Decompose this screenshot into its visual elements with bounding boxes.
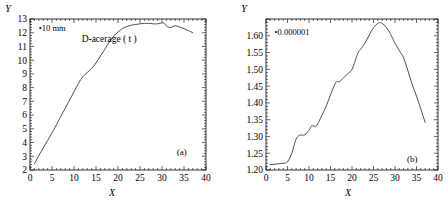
- y-tick-label: 13: [18, 14, 28, 24]
- x-tick-label: 35: [412, 173, 422, 183]
- y-tick-label: 1.25: [246, 149, 263, 159]
- y-tick-label: 9: [22, 69, 27, 79]
- x-tick-label: 40: [201, 173, 211, 183]
- y-tick-label: 1.60: [246, 31, 263, 41]
- y-tick-label: 10: [18, 56, 28, 66]
- x-tick-label: 15: [91, 173, 101, 183]
- y-tick-label: 1.20: [246, 165, 263, 175]
- y-axis-ticks-b: [266, 19, 438, 170]
- y-tick-label: 1.40: [246, 98, 263, 108]
- x-tick-label: 30: [157, 173, 167, 183]
- y-axis-title-b: Y: [241, 3, 248, 14]
- x-axis-ticks-b: [266, 19, 438, 170]
- panel-label-a: (a): [177, 147, 187, 157]
- y-tick-label: 4: [22, 138, 27, 148]
- x-axis-tick-labels-b: 0510152025303540: [264, 173, 443, 183]
- chart-svg-b: 1.201.251.301.351.401.451.501.551.60 051…: [224, 0, 448, 202]
- x-tick-label: 5: [285, 173, 290, 183]
- x-axis-title-a: X: [108, 187, 116, 198]
- x-axis-tick-labels-a: 0510152025303540: [28, 173, 211, 183]
- y-tick-label: 1.35: [246, 115, 263, 125]
- x-tick-label: 10: [304, 173, 314, 183]
- x-tick-label: 25: [369, 173, 379, 183]
- y-axis-tick-labels-a: 2345678910111213: [18, 14, 28, 175]
- x-tick-label: 0: [264, 173, 269, 183]
- y-axis-title-a: Y: [5, 3, 12, 14]
- x-tick-label: 20: [347, 173, 357, 183]
- y-tick-label: 1.55: [246, 48, 263, 58]
- x-tick-label: 0: [28, 173, 33, 183]
- x-tick-label: 25: [135, 173, 145, 183]
- panel-label-b: (b): [407, 154, 418, 164]
- x-tick-label: 30: [390, 173, 400, 183]
- scale-annotation-b: •0.000001: [275, 27, 310, 37]
- x-tick-label: 40: [433, 173, 443, 183]
- y-tick-label: 2: [22, 165, 27, 175]
- y-tick-label: 3: [22, 152, 27, 162]
- x-tick-label: 35: [179, 173, 189, 183]
- y-tick-label: 1.30: [246, 132, 263, 142]
- y-tick-label: 6: [22, 110, 27, 120]
- y-tick-label: 7: [22, 97, 27, 107]
- curve-label-a: D-acerage ( t ): [82, 34, 137, 45]
- plot-frame-b: [266, 19, 438, 170]
- y-tick-label: 1.45: [246, 82, 263, 92]
- chart-panel-b: 1.201.251.301.351.401.451.501.551.60 051…: [224, 0, 448, 202]
- y-tick-label: 8: [22, 83, 27, 93]
- y-tick-label: 1.50: [246, 65, 263, 75]
- x-tick-label: 5: [50, 173, 55, 183]
- chart-svg-a: 2345678910111213 0510152025303540 Y X •1…: [0, 0, 224, 202]
- x-tick-label: 15: [326, 173, 336, 183]
- x-tick-label: 20: [113, 173, 123, 183]
- chart-panel-a: 2345678910111213 0510152025303540 Y X •1…: [0, 0, 224, 202]
- y-axis-tick-labels-b: 1.201.251.301.351.401.451.501.551.60: [246, 31, 263, 175]
- x-tick-label: 10: [69, 173, 79, 183]
- data-curve-b: [270, 23, 425, 165]
- y-tick-label: 11: [18, 42, 27, 52]
- y-tick-label: 12: [18, 28, 28, 38]
- y-tick-label: 5: [22, 124, 27, 134]
- scale-annotation-a: •10 mm: [39, 23, 66, 33]
- x-axis-title-b: X: [344, 187, 352, 198]
- figure-container: 2345678910111213 0510152025303540 Y X •1…: [0, 0, 448, 202]
